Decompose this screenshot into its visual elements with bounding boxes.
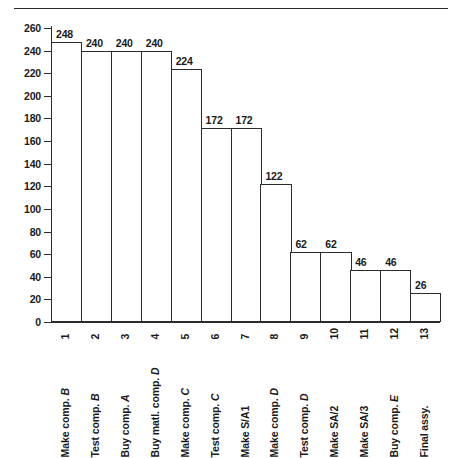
bar-value-label: 240 [146,38,163,49]
x-axis-category-label: Test comp. D [299,394,310,458]
y-axis-tick-label: 260 [5,23,41,34]
bar-value-label: 26 [415,280,426,291]
y-axis-tick-label: 60 [5,249,41,260]
y-axis-tick [44,164,51,165]
x-axis-tick-label: 11 [359,329,370,340]
x-axis-category-label: Buy matl. comp. D [149,368,160,458]
x-axis-tick-label: 9 [299,334,310,340]
x-axis-tick-label: 3 [119,334,130,340]
y-axis-tick [44,51,51,52]
x-axis-tick-label: 12 [389,328,400,339]
bar-value-label: 240 [116,38,133,49]
bar [320,252,351,322]
y-axis-tick [44,73,51,74]
y-axis-tick [44,277,51,278]
bar-value-label: 172 [206,115,223,126]
x-axis-tick-label: 13 [419,328,430,339]
bar-value-label: 62 [295,239,306,250]
bar [260,184,291,322]
x-axis-tick-label: 4 [149,334,160,340]
bar [171,69,202,322]
x-axis-category-label: Buy comp. E [389,395,400,458]
bar [81,51,112,322]
y-axis-tick-label: 240 [5,46,41,57]
y-axis-tick [44,141,51,142]
x-axis-tick-label: 10 [329,328,340,339]
bar-value-label: 122 [265,171,282,182]
y-axis-tick-label: 220 [5,68,41,79]
bar-value-label: 172 [236,115,253,126]
x-axis-category-label: Make comp. B [59,388,70,457]
x-axis-tick-label: 2 [89,334,100,340]
x-axis-category-label: Final assy. [419,406,430,458]
x-axis-category-label: Test comp. B [89,394,100,458]
y-axis-tick-label: 200 [5,91,41,102]
bar [380,270,411,322]
y-axis-tick-label: 140 [5,159,41,170]
y-axis-tick-label: 40 [5,272,41,283]
bar [51,42,82,322]
y-axis-tick-label: 80 [5,227,41,238]
y-axis-tick [44,299,51,300]
bar-value-label: 224 [176,56,193,67]
x-axis-category-label: Make comp. C [179,388,190,457]
y-axis-tick-label: 120 [5,181,41,192]
bar-value-label: 62 [325,239,336,250]
bar [141,51,172,322]
y-axis-tick-label: 180 [5,113,41,124]
x-axis-tick-label: 7 [239,334,250,340]
y-axis-tick [44,96,51,97]
y-axis-tick-label: 160 [5,136,41,147]
x-axis-tick-label: 1 [59,334,70,340]
x-axis-tick-label: 6 [209,334,220,340]
y-axis-tick [44,28,51,29]
x-axis-category-label: Make SA/2 [329,406,340,458]
x-axis-category-label: Make SA/3 [359,406,370,458]
x-axis-line [51,322,440,323]
x-axis-category-label: Make comp. D [269,388,280,457]
y-axis-tick [44,322,51,323]
y-axis-tick-label: 0 [5,317,41,328]
x-axis-category-label: Test comp. C [209,394,220,458]
x-axis-tick-label: 5 [179,334,190,340]
bar-value-label: 240 [86,38,103,49]
bar [201,128,232,322]
y-axis-tick [44,254,51,255]
y-axis-tick [44,118,51,119]
bar-value-label: 248 [56,29,73,40]
bar [410,293,441,322]
bar [290,252,321,322]
x-axis-category-label: Buy comp. A [119,394,130,457]
x-axis-category-label: Make S/A1 [239,406,250,458]
y-axis-tick-label: 100 [5,204,41,215]
y-axis-tick [44,186,51,187]
top-horizontal-rule [14,8,448,9]
bar [111,51,142,322]
y-axis-tick [44,209,51,210]
bar-value-label: 46 [355,257,366,268]
bar [350,270,381,322]
y-axis-tick [44,232,51,233]
bar [231,128,262,322]
bar-value-label: 46 [385,257,396,268]
x-axis-tick-label: 8 [269,334,280,340]
y-axis-tick-label: 20 [5,294,41,305]
